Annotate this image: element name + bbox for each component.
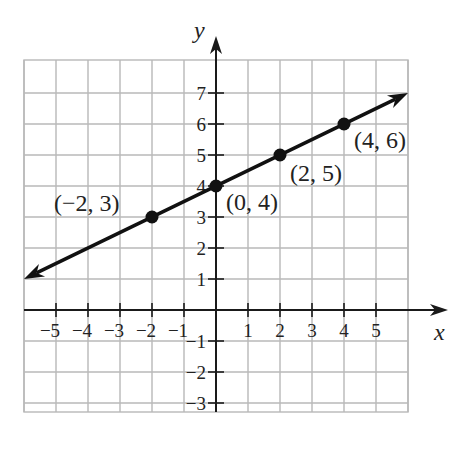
x-tick-label: −5	[40, 320, 60, 341]
y-tick-label: 3	[197, 207, 207, 228]
x-axis-label: x	[433, 319, 445, 345]
y-tick-label: 2	[197, 238, 207, 259]
y-axis-label: y	[192, 17, 205, 43]
y-tick-label: −2	[186, 362, 206, 383]
point-labels: (−2, 3)(0, 4)(2, 5)(4, 6)	[54, 127, 406, 216]
y-tick-label: −1	[186, 331, 206, 352]
data-point	[274, 149, 287, 162]
y-tick-label: 5	[197, 145, 207, 166]
point-label: (4, 6)	[354, 127, 406, 153]
point-label: (−2, 3)	[54, 190, 120, 216]
x-tick-label: 5	[371, 320, 381, 341]
x-tick-label: −4	[72, 320, 93, 341]
coordinate-plane: −5−4−3−2−112345−3−2−11234567 (−2, 3)(0, …	[0, 0, 470, 458]
x-tick-label: −2	[136, 320, 156, 341]
point-label: (0, 4)	[226, 189, 278, 215]
data-point	[338, 118, 351, 131]
x-tick-label: 2	[275, 320, 285, 341]
point-label: (2, 5)	[290, 160, 342, 186]
x-tick-label: 3	[307, 320, 317, 341]
x-tick-label: 1	[243, 320, 253, 341]
data-point	[210, 180, 223, 193]
coordinate-plane-figure: −5−4−3−2−112345−3−2−11234567 (−2, 3)(0, …	[0, 0, 470, 458]
y-tick-label: −3	[186, 393, 206, 414]
y-tick-label: 6	[197, 114, 207, 135]
y-tick-label: 1	[197, 269, 207, 290]
data-point	[146, 211, 159, 224]
y-tick-label: 7	[197, 83, 207, 104]
x-tick-label: −3	[104, 320, 124, 341]
x-tick-label: 4	[339, 320, 349, 341]
